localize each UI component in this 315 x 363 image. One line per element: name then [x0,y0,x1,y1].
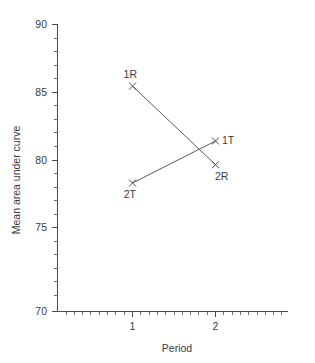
point-labels: 1R 1T 2R 2T [124,68,235,200]
interaction-plot: 90 85 80 75 70 1 2 Period Mean area unde… [0,0,315,363]
point-label-2t: 2T [124,188,137,200]
y-tick-label-85: 85 [35,86,47,98]
y-tick-label-70: 70 [35,305,47,317]
point-label-1r: 1R [124,68,138,80]
series-lines [133,86,216,183]
series-line-sequence-t [133,141,216,183]
axes [58,24,289,312]
x-axis-title: Period [162,342,193,354]
marker-2t [129,180,136,187]
y-tick-label-75: 75 [35,221,47,233]
y-tick-labels: 90 85 80 75 70 [35,18,47,317]
x-axis-ticks [66,312,282,318]
y-axis-ticks [52,25,58,312]
marker-1r [129,83,136,90]
x-tick-labels: 1 2 [130,320,219,332]
x-tick-label-1: 1 [130,320,136,332]
point-label-1t: 1T [222,134,235,146]
y-tick-label-90: 90 [35,18,47,30]
series-line-sequence-r [133,86,216,165]
data-point-markers [129,83,219,187]
marker-1t [212,138,219,145]
chart-figure: 90 85 80 75 70 1 2 Period Mean area unde… [0,0,315,363]
point-label-2r: 2R [215,170,229,182]
y-tick-label-80: 80 [35,154,47,166]
x-tick-label-2: 2 [213,320,219,332]
y-axis-title: Mean area under curve [10,126,22,235]
marker-2r [212,161,219,168]
